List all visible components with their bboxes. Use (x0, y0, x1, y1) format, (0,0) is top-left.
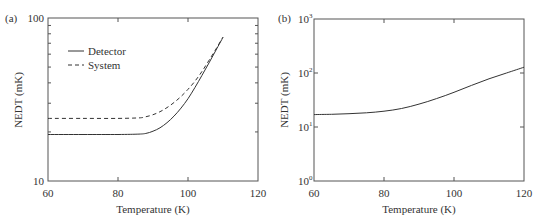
panel-b-xtick-120: 120 (516, 187, 533, 199)
panel-b-xtick-80: 80 (379, 187, 391, 199)
panel-b-label: (b) (278, 12, 291, 25)
panel-a-frame (48, 18, 258, 181)
panel-b-ytick-1000: 103 (298, 12, 313, 25)
panel-b-ytick-1: 100 (298, 174, 313, 187)
panel-b-nedt-line (314, 67, 524, 114)
panel-a-xtick-60: 60 (43, 187, 55, 199)
panel-a-xtick-100: 100 (180, 187, 197, 199)
figure: (a) 100 10 Detector System NEDT (mK) Tem… (0, 0, 546, 223)
panel-b-xtick-60: 60 (309, 187, 321, 199)
panel-b-ytick-100: 102 (298, 66, 313, 79)
panel-b-ylabel: NEDT (mK) (278, 72, 291, 128)
panel-b-xlabel: Temperature (K) (382, 203, 456, 216)
panel-a-ytick-100: 100 (28, 12, 45, 24)
panel-b-frame (314, 19, 524, 181)
panel-b-ticks (314, 19, 524, 181)
panel-b-xtick-100: 100 (446, 187, 463, 199)
panel-a-ytick-10: 10 (33, 175, 45, 187)
panel-a-minor-ticks (48, 18, 258, 181)
panel-a-legend: Detector System (68, 45, 126, 71)
panel-a-xtick-120: 120 (250, 187, 267, 199)
panel-a-xtick-80: 80 (113, 187, 125, 199)
legend-detector-label: Detector (88, 45, 126, 57)
panel-a-ylabel: NEDT (mK) (12, 72, 25, 128)
panel-a-xlabel: Temperature (K) (116, 203, 190, 216)
panel-a-label: (a) (5, 12, 18, 25)
panel-b-ytick-10: 101 (298, 120, 313, 133)
panel-a-detector-line (48, 37, 223, 134)
panel-a-system-line (48, 37, 223, 118)
legend-system-label: System (88, 59, 121, 71)
panel-a: (a) 100 10 Detector System NEDT (mK) Tem… (5, 12, 267, 216)
panel-b: (b) 103 102 101 100 NEDT (mK) Temperatur… (278, 12, 533, 216)
panel-b-yticks: 103 102 101 100 (298, 12, 313, 187)
